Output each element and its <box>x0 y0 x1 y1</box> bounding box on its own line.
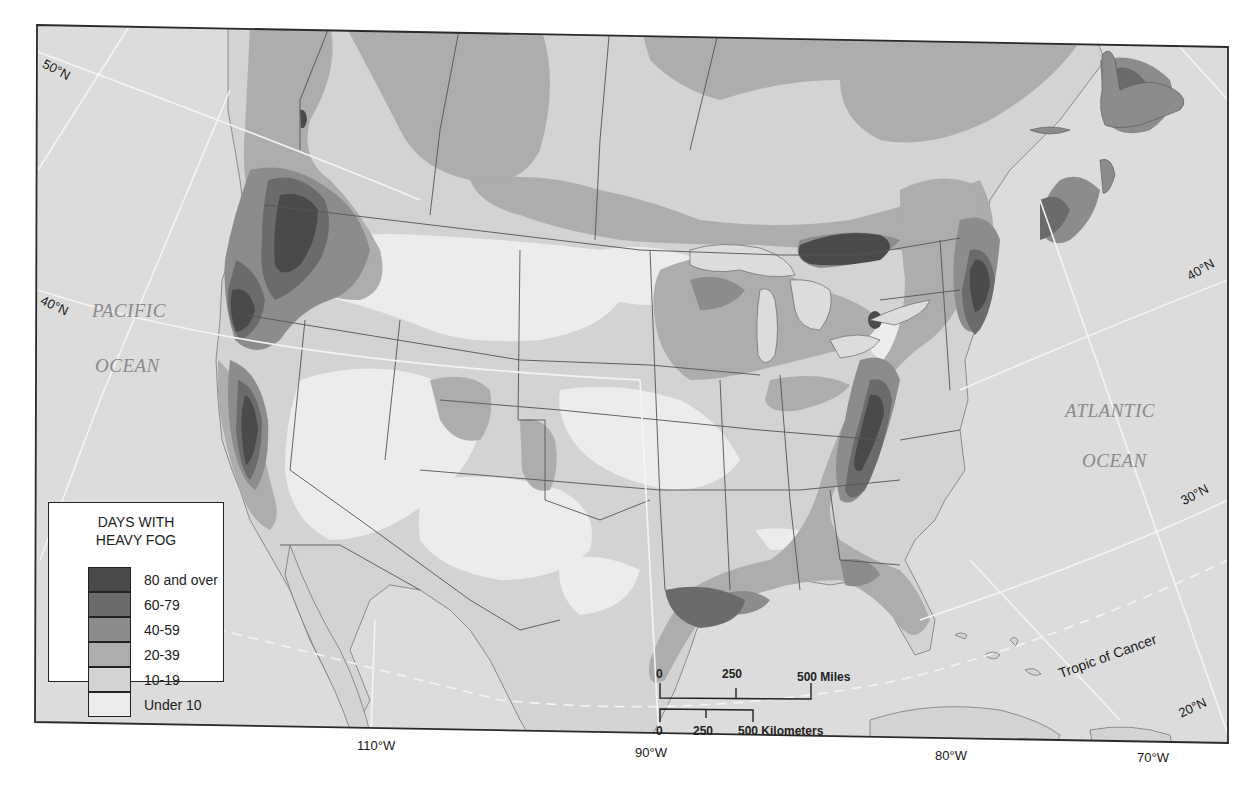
legend-title-line2: HEAVY FOG <box>49 531 223 549</box>
lon-70w-label: 70°W <box>1137 750 1169 765</box>
scale-miles-250: 250 <box>722 667 742 681</box>
atlantic-ocean-label-line1: ATLANTIC <box>1065 400 1155 422</box>
legend-title-line1: DAYS WITH <box>49 513 223 531</box>
legend-row-20-39: 20-39 <box>88 642 218 667</box>
pacific-ocean-label-line1: PACIFIC <box>92 300 166 322</box>
legend-swatch <box>88 692 131 717</box>
legend-row-60-79: 60-79 <box>88 592 218 617</box>
legend-label: 20-39 <box>144 647 180 663</box>
legend-label: 60-79 <box>144 597 180 613</box>
legend-row-80-plus: 80 and over <box>88 567 218 592</box>
legend-swatch <box>88 567 131 592</box>
legend-row-10-19: 10-19 <box>88 667 218 692</box>
scale-km-0: 0 <box>656 724 663 738</box>
atlantic-ocean-label-line2: OCEAN <box>1082 450 1147 472</box>
scale-miles-500: 500 Miles <box>797 670 850 684</box>
legend-label: 10-19 <box>144 672 180 688</box>
scale-km-500: 500 Kilometers <box>738 724 823 738</box>
legend-label: Under 10 <box>144 697 202 713</box>
legend-label: 80 and over <box>144 572 218 588</box>
legend-swatch <box>88 642 131 667</box>
legend-title: DAYS WITH HEAVY FOG <box>49 513 223 549</box>
legend-swatch <box>88 617 131 642</box>
legend-row-40-59: 40-59 <box>88 617 218 642</box>
legend-rows: 80 and over 60-79 40-59 20-39 10-19 Unde… <box>88 567 218 717</box>
legend-swatch <box>88 592 131 617</box>
scale-miles-0: 0 <box>656 667 663 681</box>
legend-label: 40-59 <box>144 622 180 638</box>
lon-80w-label: 80°W <box>935 748 967 763</box>
pacific-ocean-label-line2: OCEAN <box>95 355 160 377</box>
scale-km-250: 250 <box>693 724 713 738</box>
lon-110w-label: 110°W <box>357 738 395 753</box>
lon-90w-label: 90°W <box>635 745 667 760</box>
fog-legend: DAYS WITH HEAVY FOG 80 and over 60-79 40… <box>48 502 224 682</box>
legend-row-under-10: Under 10 <box>88 692 218 717</box>
legend-swatch <box>88 667 131 692</box>
